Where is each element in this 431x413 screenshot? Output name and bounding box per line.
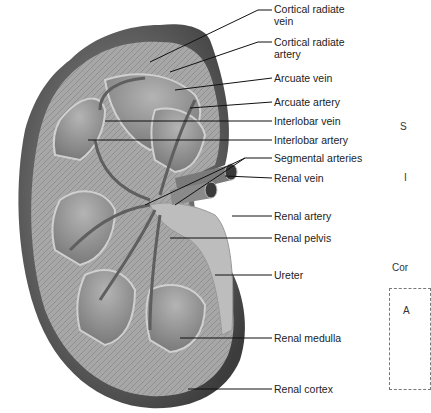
- label-renal-artery: Renal artery: [274, 210, 331, 222]
- clipped-label-cor: Cor: [392, 262, 408, 273]
- clipped-label-a: A: [403, 305, 410, 316]
- clipped-label-s: S: [400, 121, 407, 132]
- label-segmental-arteries: Segmental arteries: [274, 152, 362, 164]
- label-arcuate-artery: Arcuate artery: [274, 96, 340, 108]
- clipped-label-i: I: [404, 172, 407, 183]
- label-renal-pelvis: Renal pelvis: [274, 232, 331, 244]
- label-renal-cortex: Renal cortex: [274, 383, 333, 395]
- label-interlobar-artery: Interlobar artery: [274, 134, 348, 146]
- label-arcuate-vein: Arcuate vein: [274, 72, 332, 84]
- label-ureter: Ureter: [274, 269, 303, 281]
- label-renal-vein: Renal vein: [274, 172, 324, 184]
- clipped-dashed-box: [389, 288, 431, 390]
- label-renal-medulla: Renal medulla: [274, 332, 341, 344]
- label-cortical-radiate-vein: Cortical radiatevein: [274, 3, 345, 27]
- label-interlobar-vein: Interlobar vein: [274, 115, 341, 127]
- label-cortical-radiate-artery: Cortical radiateartery: [274, 36, 345, 60]
